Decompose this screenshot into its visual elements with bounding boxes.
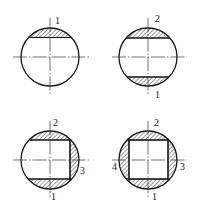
label-cut-3: 3 [180,161,185,172]
figure-3: 2 3 1 [13,117,89,202]
figure-4: 2 4 3 1 [112,117,187,202]
label-cut-2: 2 [155,13,160,24]
figure-1: 1 [13,15,89,96]
machining-diagram: 1 2 1 2 3 1 [0,0,199,212]
label-cut-2: 2 [53,117,58,128]
label-cut-1: 1 [51,191,56,202]
label-cut-2: 2 [154,117,159,128]
square-cut-profile [129,140,168,179]
square-cut-profile [29,140,70,179]
label-cut-3: 3 [80,165,85,176]
label-cut-1: 1 [55,15,60,26]
label-cut-1: 1 [155,89,160,100]
label-cut-1: 1 [152,191,157,202]
label-cut-4: 4 [112,161,117,172]
figure-2: 2 1 [112,13,187,100]
